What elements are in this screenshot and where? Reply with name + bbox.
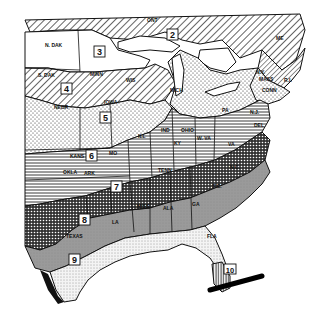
- state-label-me: ME: [276, 35, 284, 41]
- state-label-wva: W. VA: [197, 135, 211, 141]
- state-label-ny: N.Y.: [256, 69, 266, 75]
- zone-marker-2: 2: [167, 29, 178, 40]
- state-label-sdak: S. DAK: [38, 72, 55, 78]
- zone-map: N. DAK S. DAK NEBR MINN WIS IOWA ILL IND…: [0, 0, 323, 311]
- state-label-kans: KANS: [70, 153, 85, 159]
- state-label-mich: MICH: [170, 87, 183, 93]
- state-label-miss: MISS: [137, 203, 150, 209]
- state-label-va: VA: [228, 141, 235, 147]
- state-label-mass: MASS: [259, 76, 274, 82]
- svg-text:10: 10: [226, 266, 234, 275]
- state-label-minn: MINN: [90, 71, 103, 77]
- state-label-ri: R.I.: [284, 77, 292, 83]
- zone-marker-6: 6: [86, 150, 97, 161]
- region-label-ont: ONT: [147, 17, 158, 23]
- svg-text:8: 8: [82, 215, 87, 225]
- state-label-ill: ILL: [138, 133, 146, 139]
- state-label-pa: PA: [222, 107, 229, 113]
- state-label-ind: IND: [161, 127, 170, 133]
- state-label-la: LA: [112, 219, 119, 225]
- state-label-ky: KY: [174, 140, 182, 146]
- state-label-nebr: NEBR: [54, 104, 69, 110]
- state-label-ohio: OHIO: [181, 127, 194, 133]
- zone-marker-5: 5: [100, 112, 111, 123]
- zone-marker-9: 9: [69, 254, 80, 265]
- state-label-conn: CONN: [262, 87, 277, 93]
- state-label-nj: N.J.: [250, 109, 260, 115]
- svg-text:3: 3: [97, 47, 102, 57]
- zone-marker-7: 7: [111, 181, 122, 192]
- state-label-del: DEL: [254, 122, 264, 128]
- svg-text:6: 6: [89, 151, 94, 161]
- state-label-sc: S.C.: [212, 183, 222, 189]
- state-label-texas: TEXAS: [66, 233, 83, 239]
- state-label-ark: ARK: [84, 170, 95, 176]
- state-label-okla: OKLA: [63, 169, 78, 175]
- state-label-wis: WIS: [126, 77, 136, 83]
- svg-text:5: 5: [103, 113, 108, 123]
- state-label-ala: ALA: [163, 205, 174, 211]
- svg-text:9: 9: [72, 255, 77, 265]
- state-label-nc: N.C.: [230, 164, 241, 170]
- zone-marker-4: 4: [61, 83, 72, 94]
- svg-text:2: 2: [170, 30, 175, 40]
- svg-text:4: 4: [64, 84, 69, 94]
- zone-marker-3: 3: [94, 46, 105, 57]
- svg-text:7: 7: [114, 182, 119, 192]
- state-label-iowa: IOWA: [104, 99, 118, 105]
- state-label-ndak: N. DAK: [45, 42, 63, 48]
- state-label-fla: FLA: [207, 233, 217, 239]
- state-label-tenn: TENN: [158, 167, 172, 173]
- zone-marker-10: 10: [224, 264, 236, 275]
- zone-marker-8: 8: [79, 214, 90, 225]
- state-label-ga: GA: [192, 201, 200, 207]
- state-label-mo: MO: [109, 150, 117, 156]
